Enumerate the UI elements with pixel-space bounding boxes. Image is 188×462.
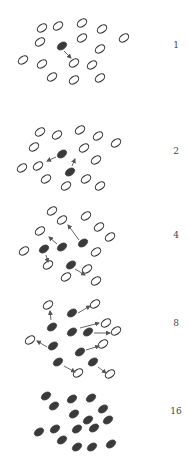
arrow-icon (68, 225, 79, 240)
arrow-icon (64, 51, 71, 58)
open-cell-icon (81, 263, 93, 275)
open-cell-icon (17, 54, 29, 66)
open-cell-icon (96, 23, 108, 35)
filled-cell-icon (97, 403, 109, 415)
open-cell-icon (40, 173, 52, 185)
filled-cell-icon (74, 346, 86, 358)
open-cell-icon (56, 214, 68, 226)
open-cell-icon (76, 32, 88, 44)
open-cell-icon (90, 154, 102, 166)
stage-label-8: 8 (166, 318, 186, 328)
open-cell-icon (80, 210, 92, 222)
filled-cell-icon (66, 393, 78, 405)
open-cell-icon (89, 298, 101, 310)
arrow-icon (37, 341, 47, 347)
open-cell-icon (94, 43, 106, 55)
arrow-icon (64, 366, 75, 372)
open-cell-icon (51, 129, 63, 141)
open-cell-icon (72, 367, 84, 379)
cell-doubling-diagram (0, 0, 188, 462)
open-cell-icon (34, 36, 46, 48)
open-cell-icon (34, 225, 46, 237)
arrow-icon (50, 311, 51, 320)
open-cell-icon (28, 141, 40, 153)
arrow-icon (80, 323, 99, 328)
open-cell-icon (46, 205, 58, 217)
filled-cell-icon (82, 414, 94, 426)
arrow-icon (98, 367, 106, 373)
filled-cell-icon (82, 326, 94, 338)
open-cell-icon (100, 317, 112, 329)
open-cell-icon (36, 58, 48, 70)
filled-cell-icon (56, 434, 68, 446)
arrow-icon (47, 157, 56, 161)
panel-16 (33, 390, 117, 453)
open-cell-icon (94, 72, 106, 84)
filled-cell-icon (88, 422, 100, 434)
filled-cell-icon (68, 408, 80, 420)
stage-label-16: 16 (166, 406, 186, 416)
filled-cell-icon (56, 40, 68, 52)
filled-cell-icon (102, 414, 114, 426)
filled-cell-icon (33, 426, 45, 438)
open-cell-icon (104, 231, 116, 243)
filled-cell-icon (56, 241, 68, 253)
filled-cell-icon (71, 441, 83, 453)
open-cell-icon (104, 368, 116, 380)
open-cell-icon (42, 299, 54, 311)
open-cell-icon (94, 180, 106, 192)
filled-cell-icon (86, 441, 98, 453)
open-cell-icon (93, 221, 105, 233)
open-cell-icon (60, 180, 72, 192)
arrow-icon (72, 159, 75, 166)
open-cell-icon (110, 325, 122, 337)
stage-label-1: 1 (166, 40, 186, 50)
filled-cell-icon (48, 400, 60, 412)
arrow-icon (75, 269, 85, 275)
open-cell-icon (18, 245, 30, 257)
open-cell-icon (74, 124, 86, 136)
filled-cell-icon (49, 423, 61, 435)
filled-cell-icon (52, 356, 64, 368)
open-cell-icon (92, 130, 104, 142)
filled-cell-icon (85, 392, 97, 404)
filled-cell-icon (71, 423, 83, 435)
stage-label-4: 4 (166, 230, 186, 240)
filled-cell-icon (40, 390, 52, 402)
stage-label-2: 2 (166, 146, 186, 156)
filled-cell-icon (38, 243, 50, 255)
open-cell-icon (90, 275, 102, 287)
filled-cell-icon (105, 438, 117, 450)
open-cell-icon (46, 71, 58, 83)
filled-cell-icon (64, 166, 76, 178)
open-cell-icon (118, 32, 130, 44)
filled-cell-icon (66, 307, 78, 319)
open-cell-icon (24, 334, 36, 346)
open-cell-icon (36, 22, 48, 34)
arrow-icon (78, 306, 90, 313)
filled-cell-icon (66, 326, 78, 338)
panel-4 (18, 205, 116, 287)
filled-cell-icon (87, 356, 99, 368)
open-cell-icon (68, 57, 80, 69)
filled-cell-icon (56, 148, 68, 160)
filled-cell-icon (47, 340, 59, 352)
open-cell-icon (76, 17, 88, 29)
panel-2 (16, 124, 122, 192)
open-cell-icon (16, 162, 28, 174)
open-cell-icon (110, 137, 122, 149)
open-cell-icon (78, 142, 90, 154)
arrow-icon (86, 346, 99, 350)
arrow-icon (49, 237, 57, 244)
panel-1 (17, 17, 130, 86)
open-cell-icon (60, 271, 72, 283)
arrow-icon (46, 255, 48, 262)
panel-8 (24, 298, 122, 380)
open-cell-icon (34, 126, 46, 138)
open-cell-icon (86, 59, 98, 71)
open-cell-icon (68, 74, 80, 86)
open-cell-icon (32, 160, 44, 172)
open-cell-icon (90, 246, 102, 258)
open-cell-icon (80, 173, 92, 185)
open-cell-icon (52, 20, 64, 32)
